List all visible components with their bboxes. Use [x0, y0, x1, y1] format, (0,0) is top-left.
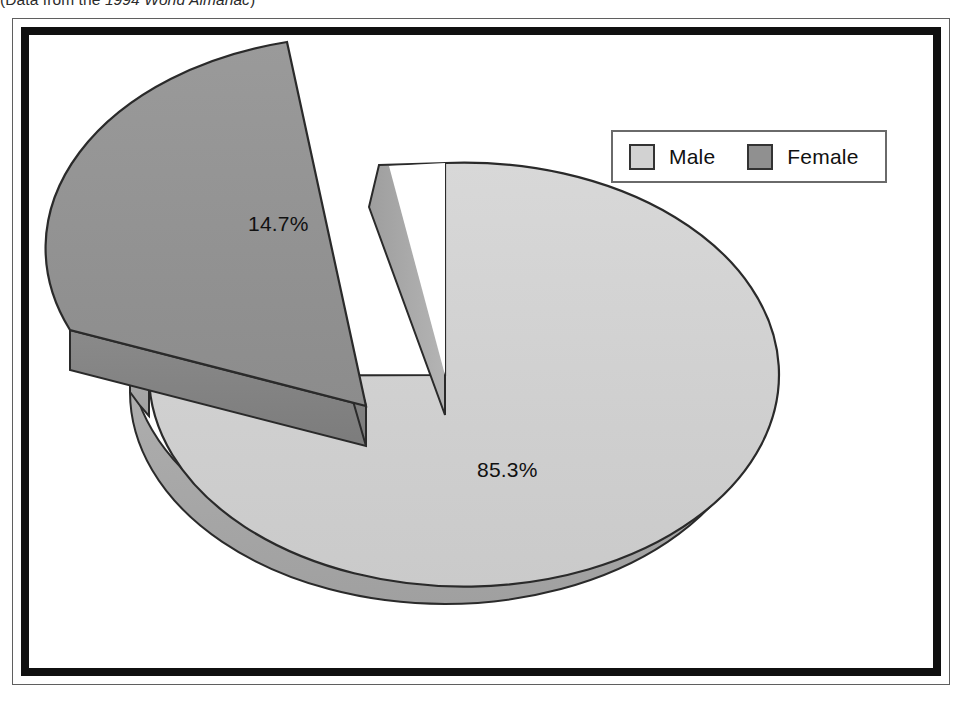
- legend-label-female: Female: [787, 145, 858, 169]
- chart-legend: Male Female: [611, 130, 887, 183]
- caption-suffix: ): [250, 0, 255, 8]
- legend-entry-female: Female: [747, 144, 858, 170]
- legend-swatch-female-icon: [747, 144, 773, 170]
- legend-swatch-male-icon: [629, 144, 655, 170]
- legend-label-male: Male: [669, 145, 715, 169]
- figure-caption: (Data from the 1994 World Almanac): [0, 0, 600, 13]
- slice-label-male: 85.3%: [477, 458, 538, 482]
- caption-source-title: 1994 World Almanac: [105, 0, 250, 8]
- chart-plot-area: 14.7% 85.3% Male Female: [29, 35, 933, 668]
- caption-prefix: (Data from the: [0, 0, 105, 8]
- pie-slice-female: [46, 42, 366, 446]
- slice-label-female: 14.7%: [248, 212, 309, 236]
- legend-entry-male: Male: [629, 144, 715, 170]
